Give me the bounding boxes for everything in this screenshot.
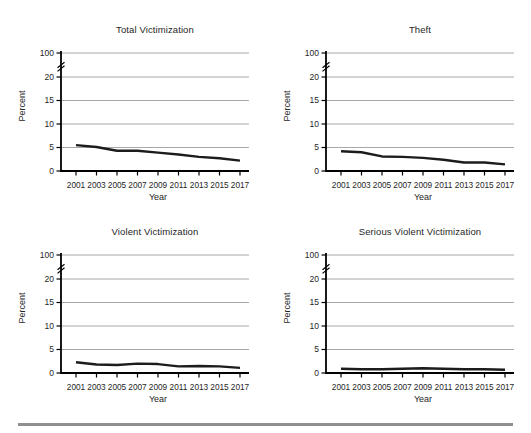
svg-text:2003: 2003 xyxy=(87,180,106,190)
svg-text:2007: 2007 xyxy=(128,382,147,392)
svg-text:5: 5 xyxy=(314,142,319,152)
svg-text:2005: 2005 xyxy=(108,382,127,392)
chart-serious-violent-victimization: Serious Violent Victimization Percent 05… xyxy=(265,202,530,404)
svg-text:2013: 2013 xyxy=(455,382,474,392)
plot-area-violent-victimization: 0510152010020012003200520072009201120132… xyxy=(28,246,265,396)
chart-theft: Theft Percent 05101520100200120032005200… xyxy=(265,0,530,202)
svg-text:0: 0 xyxy=(49,166,54,176)
svg-text:2011: 2011 xyxy=(170,382,188,392)
svg-text:2017: 2017 xyxy=(496,382,515,392)
svg-text:2017: 2017 xyxy=(231,180,250,190)
svg-text:2003: 2003 xyxy=(352,180,371,190)
x-axis-label: Year xyxy=(341,394,505,404)
svg-text:5: 5 xyxy=(314,344,319,354)
svg-text:15: 15 xyxy=(310,297,320,307)
svg-text:100: 100 xyxy=(40,48,54,58)
x-axis-label: Year xyxy=(76,192,240,202)
y-axis-label: Percent xyxy=(17,292,27,323)
chart-title: Total Victimization xyxy=(45,24,265,35)
plot-area-serious-violent-victimization: 0510152010020012003200520072009201120132… xyxy=(293,246,530,396)
x-axis-label: Year xyxy=(341,192,505,202)
svg-text:10: 10 xyxy=(45,119,55,129)
svg-text:20: 20 xyxy=(310,72,320,82)
svg-text:2015: 2015 xyxy=(210,180,229,190)
svg-text:2007: 2007 xyxy=(393,382,412,392)
y-axis-label: Percent xyxy=(17,90,27,121)
y-axis-label: Percent xyxy=(282,292,292,323)
svg-text:10: 10 xyxy=(310,321,320,331)
svg-text:2011: 2011 xyxy=(435,382,453,392)
svg-text:20: 20 xyxy=(310,274,320,284)
svg-text:2009: 2009 xyxy=(414,382,433,392)
svg-text:2003: 2003 xyxy=(352,382,371,392)
svg-text:100: 100 xyxy=(305,48,319,58)
svg-text:2005: 2005 xyxy=(373,180,392,190)
svg-text:2013: 2013 xyxy=(190,180,209,190)
chart-title: Serious Violent Victimization xyxy=(310,226,530,237)
svg-text:10: 10 xyxy=(45,321,55,331)
svg-text:0: 0 xyxy=(49,368,54,378)
svg-text:2009: 2009 xyxy=(149,382,168,392)
svg-text:10: 10 xyxy=(310,119,320,129)
chart-total-victimization: Total Victimization Percent 051015201002… xyxy=(0,0,265,202)
svg-text:0: 0 xyxy=(314,166,319,176)
svg-text:2017: 2017 xyxy=(231,382,250,392)
svg-text:2015: 2015 xyxy=(210,382,229,392)
svg-text:2005: 2005 xyxy=(373,382,392,392)
x-axis-label: Year xyxy=(76,394,240,404)
svg-text:2011: 2011 xyxy=(170,180,188,190)
svg-text:100: 100 xyxy=(40,250,54,260)
svg-text:2015: 2015 xyxy=(475,382,494,392)
svg-text:2007: 2007 xyxy=(128,180,147,190)
plot-area-theft: 0510152010020012003200520072009201120132… xyxy=(293,44,530,194)
svg-text:100: 100 xyxy=(305,250,319,260)
svg-text:2003: 2003 xyxy=(87,382,106,392)
svg-text:2007: 2007 xyxy=(393,180,412,190)
svg-text:2009: 2009 xyxy=(414,180,433,190)
plot-area-total-victimization: 0510152010020012003200520072009201120132… xyxy=(28,44,265,194)
svg-text:20: 20 xyxy=(45,72,55,82)
svg-text:2017: 2017 xyxy=(496,180,515,190)
svg-text:2001: 2001 xyxy=(67,382,86,392)
svg-text:2001: 2001 xyxy=(332,180,351,190)
y-axis-label: Percent xyxy=(282,90,292,121)
svg-text:2001: 2001 xyxy=(67,180,86,190)
svg-text:2013: 2013 xyxy=(455,180,474,190)
report-figure: Total Victimization Percent 051015201002… xyxy=(0,0,531,433)
chart-title: Violent Victimization xyxy=(45,226,265,237)
bottom-divider-rule xyxy=(18,423,513,426)
svg-text:15: 15 xyxy=(45,95,55,105)
chart-title: Theft xyxy=(310,24,530,35)
svg-text:5: 5 xyxy=(49,142,54,152)
svg-text:2013: 2013 xyxy=(190,382,209,392)
svg-text:15: 15 xyxy=(45,297,55,307)
svg-text:2015: 2015 xyxy=(475,180,494,190)
svg-text:2001: 2001 xyxy=(332,382,351,392)
chart-violent-victimization: Violent Victimization Percent 0510152010… xyxy=(0,202,265,404)
svg-text:2011: 2011 xyxy=(435,180,453,190)
svg-text:20: 20 xyxy=(45,274,55,284)
svg-text:2009: 2009 xyxy=(149,180,168,190)
svg-text:0: 0 xyxy=(314,368,319,378)
svg-text:5: 5 xyxy=(49,344,54,354)
svg-text:15: 15 xyxy=(310,95,320,105)
svg-text:2005: 2005 xyxy=(108,180,127,190)
